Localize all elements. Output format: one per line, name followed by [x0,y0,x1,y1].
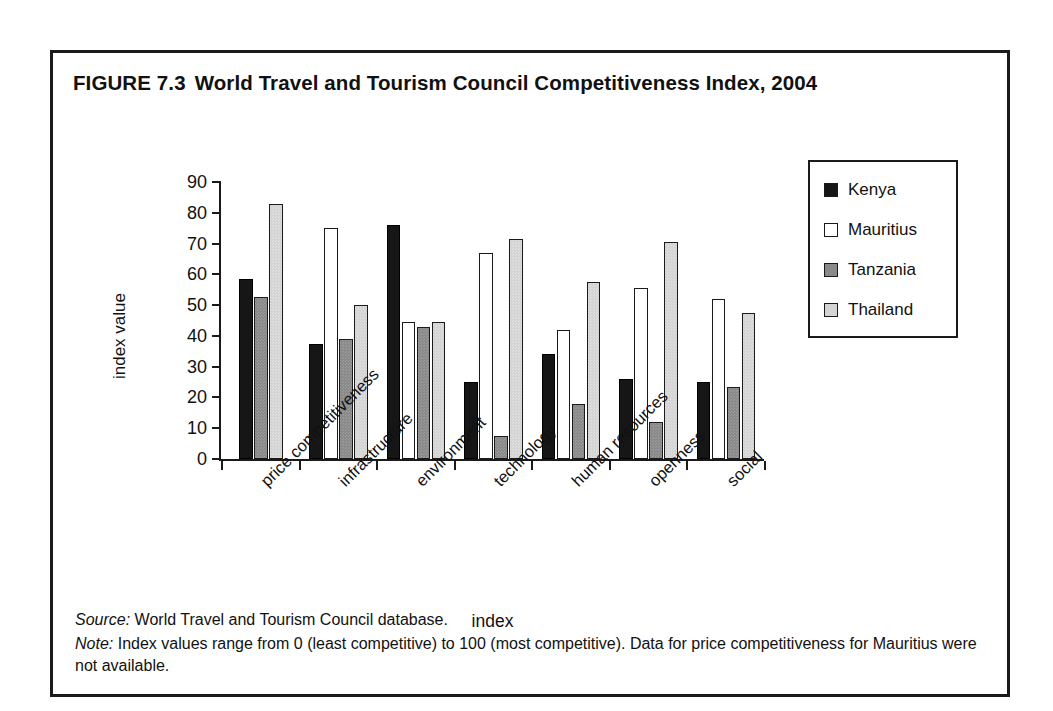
note-label: Note: [75,635,113,652]
bar-tanzania-social [727,387,741,459]
legend-item-thailand: Thailand [824,300,913,320]
legend-label: Tanzania [848,260,916,280]
figure-number: FIGURE 7.3 [73,71,186,94]
bar-mauritius-environment [402,322,416,459]
bar-thailand-price-competitiveness [269,204,283,459]
y-tick-label: 70 [165,235,207,253]
legend-item-kenya: Kenya [824,180,896,200]
y-tick-label: 20 [165,388,207,406]
light-gray-square-icon [824,303,838,317]
figure-page: FIGURE 7.3World Travel and Tourism Counc… [0,0,1053,711]
y-tick-label: 40 [165,327,207,345]
legend-item-mauritius: Mauritius [824,220,917,240]
y-axis-title: index value [110,261,130,411]
x-tick-mark [686,461,688,470]
x-tick-mark [454,461,456,470]
note-text: Index values range from 0 (least competi… [75,635,977,675]
figure-title: FIGURE 7.3World Travel and Tourism Counc… [73,71,973,95]
bars-layer [221,182,764,459]
bar-tanzania-price-competitiveness [254,297,268,459]
bar-thailand-environment [432,322,446,459]
bar-mauritius-social [712,299,726,459]
bar-kenya-price-competitiveness [239,279,253,459]
legend-label: Mauritius [848,220,917,240]
white-square-icon [824,223,838,237]
bar-tanzania-human-resources [572,404,586,459]
dark-gray-square-icon [824,263,838,277]
bar-tanzania-technology [494,436,508,459]
bar-thailand-technology [509,239,523,459]
x-tick-mark [531,461,533,470]
figure-frame: FIGURE 7.3World Travel and Tourism Counc… [50,50,1010,697]
bar-mauritius-human-resources [557,330,571,459]
y-tick-label: 80 [165,204,207,222]
x-tick-mark [221,461,223,470]
y-tick-label: 50 [165,296,207,314]
note-line: Note: Index values range from 0 (least c… [75,633,985,678]
bar-group [376,182,454,459]
bar-thailand-openness [664,242,678,459]
chart-legend: KenyaMauritiusTanzaniaThailand [808,160,958,338]
y-tick-label: 60 [165,265,207,283]
bar-group [531,182,609,459]
bar-thailand-human-resources [587,282,601,459]
source-line: Source: World Travel and Tourism Council… [75,609,985,632]
bar-group [454,182,532,459]
y-tick-label: 10 [165,419,207,437]
legend-item-tanzania: Tanzania [824,260,916,280]
y-tick-label: 90 [165,173,207,191]
x-tick-mark [299,461,301,470]
source-text: World Travel and Tourism Council databas… [130,611,448,628]
legend-label: Kenya [848,180,896,200]
y-tick-label: 0 [165,450,207,468]
bar-tanzania-environment [417,327,431,459]
legend-label: Thailand [848,300,913,320]
black-square-icon [824,183,838,197]
bar-group [686,182,764,459]
source-label: Source: [75,611,130,628]
figure-notes: Source: World Travel and Tourism Council… [75,609,985,678]
bar-thailand-social [742,313,756,459]
figure-title-text: World Travel and Tourism Council Competi… [195,71,818,94]
bar-tanzania-openness [649,422,663,459]
bar-group [221,182,299,459]
y-tick-label: 30 [165,358,207,376]
